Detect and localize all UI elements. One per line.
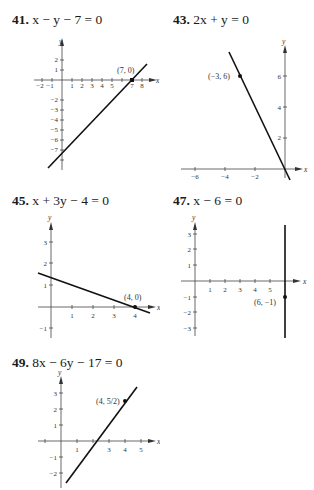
svg-text:2: 2 bbox=[55, 56, 59, 64]
svg-text:−3: −3 bbox=[51, 106, 59, 114]
problem-45-title: 45. x + 3y − 4 = 0 bbox=[12, 193, 109, 209]
svg-text:2: 2 bbox=[223, 286, 227, 294]
svg-text:−2: −2 bbox=[251, 173, 259, 181]
svg-text:−4: −4 bbox=[51, 116, 59, 124]
graph-49: 13 45 321 −1−2 y x (4, 5/2) bbox=[0, 368, 160, 490]
svg-text:2: 2 bbox=[54, 406, 58, 414]
svg-text:1: 1 bbox=[75, 446, 79, 454]
point-label: (4, 0) bbox=[124, 293, 142, 302]
svg-text:6: 6 bbox=[278, 73, 282, 81]
svg-text:1: 1 bbox=[44, 282, 48, 290]
point-marker bbox=[123, 399, 127, 403]
svg-text:3: 3 bbox=[188, 231, 192, 239]
svg-text:1: 1 bbox=[208, 286, 212, 294]
graph-47: 123 45 321 −1−2−3 y x (6, −1) bbox=[155, 210, 314, 340]
problem-number: 45. bbox=[12, 193, 29, 208]
svg-text:2: 2 bbox=[91, 312, 95, 320]
svg-text:7: 7 bbox=[130, 82, 134, 90]
svg-text:4: 4 bbox=[278, 104, 282, 112]
svg-text:1: 1 bbox=[70, 312, 74, 320]
svg-text:−4: −4 bbox=[221, 173, 229, 181]
graph-41: −2−1 123 45 78 21 −2−3 −4−5 −6−7 y x (7,… bbox=[0, 0, 160, 180]
svg-text:5: 5 bbox=[268, 286, 272, 294]
svg-text:3: 3 bbox=[238, 286, 242, 294]
svg-text:3: 3 bbox=[90, 82, 94, 90]
point-marker bbox=[130, 78, 134, 82]
svg-text:−2: −2 bbox=[184, 309, 192, 317]
svg-text:−5: −5 bbox=[51, 126, 59, 134]
graph-43: −6−4−2 246 y x (−3, 6) bbox=[155, 0, 314, 200]
point-label: (7, 0) bbox=[117, 66, 135, 75]
y-axis-label: y bbox=[281, 37, 286, 46]
svg-text:5: 5 bbox=[110, 82, 114, 90]
svg-text:−2: −2 bbox=[50, 470, 58, 478]
y-axis-label: y bbox=[57, 368, 62, 377]
svg-text:−6: −6 bbox=[51, 136, 59, 144]
svg-text:1: 1 bbox=[54, 422, 58, 430]
svg-text:−7: −7 bbox=[51, 146, 59, 154]
svg-text:4: 4 bbox=[100, 82, 104, 90]
svg-text:−1: −1 bbox=[184, 294, 192, 302]
svg-text:8: 8 bbox=[140, 82, 144, 90]
svg-text:4: 4 bbox=[133, 312, 137, 320]
svg-text:5: 5 bbox=[139, 446, 143, 454]
x-axis-label: x bbox=[303, 165, 308, 174]
point-marker bbox=[283, 295, 287, 299]
svg-text:3: 3 bbox=[107, 446, 111, 454]
x-axis-label: x bbox=[156, 437, 160, 446]
svg-text:1: 1 bbox=[55, 66, 59, 74]
svg-text:2: 2 bbox=[188, 246, 192, 254]
svg-text:−2: −2 bbox=[51, 96, 59, 104]
point-label: (4, 5/2) bbox=[96, 397, 120, 406]
y-axis-label: y bbox=[191, 213, 196, 222]
svg-text:2: 2 bbox=[80, 82, 84, 90]
svg-text:1: 1 bbox=[188, 262, 192, 270]
svg-text:−2: −2 bbox=[36, 82, 44, 90]
svg-text:4: 4 bbox=[253, 286, 257, 294]
svg-text:2: 2 bbox=[44, 260, 48, 268]
svg-text:−1: −1 bbox=[50, 454, 58, 462]
svg-text:3: 3 bbox=[44, 239, 48, 247]
svg-text:4: 4 bbox=[123, 446, 127, 454]
point-label: (−3, 6) bbox=[208, 72, 230, 81]
svg-text:−3: −3 bbox=[184, 325, 192, 333]
svg-text:1: 1 bbox=[70, 82, 74, 90]
svg-text:−1: −1 bbox=[40, 325, 48, 333]
problem-equation: x − 6 = 0 bbox=[193, 193, 242, 208]
problem-47-title: 47. x − 6 = 0 bbox=[173, 193, 242, 209]
problem-equation: x + 3y − 4 = 0 bbox=[32, 193, 109, 208]
y-axis-label: y bbox=[58, 37, 63, 46]
graph-45: 1234 321−1 y x (4, 0) bbox=[0, 210, 160, 340]
point-marker bbox=[133, 305, 137, 309]
svg-text:2: 2 bbox=[278, 134, 282, 142]
y-axis-label: y bbox=[47, 213, 52, 222]
point-label: (6, −1) bbox=[254, 298, 276, 307]
svg-text:3: 3 bbox=[54, 390, 58, 398]
graph-line bbox=[229, 52, 290, 180]
svg-text:−1: −1 bbox=[46, 82, 54, 90]
problem-number: 47. bbox=[173, 193, 190, 208]
svg-text:−6: −6 bbox=[191, 173, 199, 181]
svg-text:3: 3 bbox=[112, 312, 116, 320]
x-axis-label: x bbox=[302, 277, 307, 286]
point-marker bbox=[238, 74, 242, 78]
